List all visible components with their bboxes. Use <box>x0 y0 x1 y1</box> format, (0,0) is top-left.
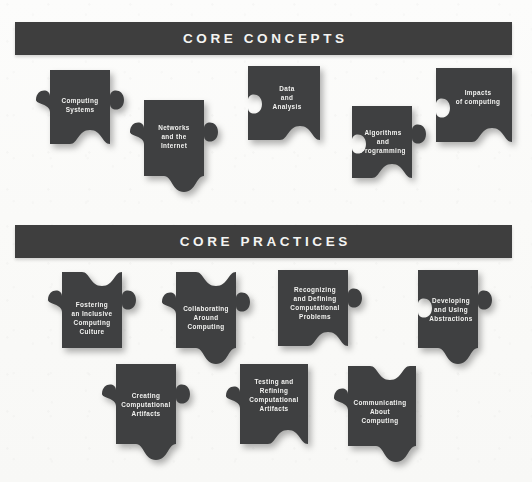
puzzle-piece-developing-using-abstractions[interactable]: Developing and Using Abstractions <box>400 266 496 370</box>
puzzle-shape-data-and-analysis <box>240 62 328 156</box>
puzzle-piece-computing-systems[interactable]: Computing Systems <box>32 66 128 162</box>
puzzle-shape-algorithms-and-programming <box>334 102 430 194</box>
puzzle-piece-algorithms-and-programming[interactable]: Algorithms and Programming <box>334 102 430 194</box>
puzzle-piece-recognizing-defining-problems[interactable]: Recognizing and Defining Computational P… <box>272 266 366 356</box>
poster-canvas: CORE CONCEPTS Computing Systems Networks… <box>0 0 532 482</box>
puzzle-piece-communicating-about-computing[interactable]: Communicating About Computing <box>330 360 422 468</box>
puzzle-piece-collaborating-around-computing[interactable]: Collaborating Around Computing <box>158 266 254 370</box>
puzzle-piece-networks-and-internet[interactable]: Networks and the Internet <box>126 96 222 198</box>
puzzle-shape-collaborating-around-computing <box>158 266 254 370</box>
puzzle-piece-testing-refining-artifacts[interactable]: Testing and Refining Computational Artif… <box>222 360 314 452</box>
puzzle-shape-developing-using-abstractions <box>400 266 496 370</box>
puzzle-shape-fostering-inclusive-culture <box>44 266 140 354</box>
core-concepts-banner: CORE CONCEPTS <box>15 22 512 55</box>
core-practices-banner: CORE PRACTICES <box>15 225 512 258</box>
puzzle-shape-recognizing-defining-problems <box>272 266 366 356</box>
puzzle-piece-data-and-analysis[interactable]: Data and Analysis <box>240 62 328 156</box>
puzzle-shape-creating-computational-artifacts <box>98 360 194 466</box>
puzzle-shape-testing-refining-artifacts <box>222 360 314 452</box>
puzzle-shape-communicating-about-computing <box>330 360 422 468</box>
puzzle-shape-impacts-of-computing <box>428 64 520 158</box>
core-concepts-banner-label: CORE CONCEPTS <box>179 32 347 46</box>
puzzle-piece-creating-computational-artifacts[interactable]: Creating Computational Artifacts <box>98 360 194 466</box>
puzzle-shape-computing-systems <box>32 66 128 162</box>
puzzle-piece-fostering-inclusive-culture[interactable]: Fostering an Inclusive Computing Culture <box>44 266 140 354</box>
puzzle-shape-networks-and-internet <box>126 96 222 198</box>
core-practices-banner-label: CORE PRACTICES <box>176 235 351 249</box>
puzzle-piece-impacts-of-computing[interactable]: Impacts of computing <box>428 64 520 158</box>
